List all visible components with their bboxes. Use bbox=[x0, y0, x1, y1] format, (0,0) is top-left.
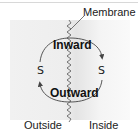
substrate-outside-label: S bbox=[37, 64, 44, 77]
membrane-leader-line bbox=[70, 16, 84, 30]
outside-label: Outside bbox=[24, 119, 62, 131]
inward-label: Inward bbox=[53, 38, 92, 52]
outward-label: Outward bbox=[50, 86, 99, 100]
membrane-label: Membrane bbox=[83, 6, 136, 18]
substrate-inside-label: S bbox=[98, 64, 105, 77]
inside-label: Inside bbox=[89, 119, 118, 131]
membrane-line bbox=[67, 20, 71, 122]
